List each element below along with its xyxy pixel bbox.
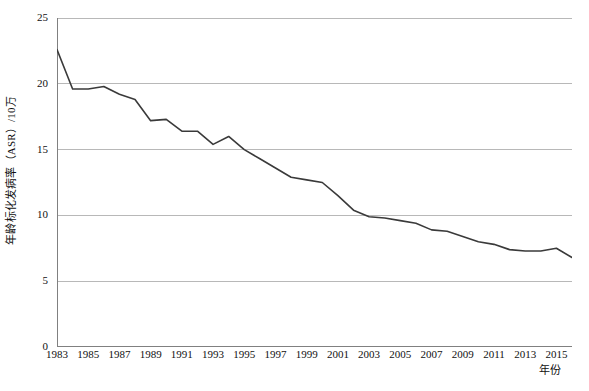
axis-lines [57, 18, 572, 347]
y-axis-tick-label: 20 [22, 78, 48, 89]
plot-area [57, 18, 572, 347]
y-axis-tick-label: 10 [22, 209, 48, 220]
x-axis-tick-label: 2015 [536, 348, 576, 361]
x-axis-title: 年份 [520, 364, 580, 377]
y-axis-title: 年龄标化发病率（ASR）/10万 [0, 0, 22, 340]
data-series-line [57, 50, 572, 258]
y-axis-tick-label: 25 [22, 12, 48, 23]
y-axis-title-label: 年龄标化发病率（ASR）/10万 [6, 96, 17, 245]
y-axis-tick-label: 5 [22, 275, 48, 286]
x-axis-tick-labels: 1983198519871989199119931995199719992001… [0, 348, 589, 364]
gridlines [57, 18, 572, 281]
y-axis-tick-label: 15 [22, 144, 48, 155]
chart-figure: 年龄标化发病率（ASR）/10万 2520151050 198319851987… [0, 0, 589, 391]
line-chart-svg [57, 18, 572, 347]
